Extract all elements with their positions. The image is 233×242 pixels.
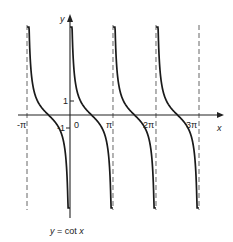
cot-branch — [156, 27, 199, 208]
cot-graph: y x 1 -1 0 -π π 2π 3π — [0, 0, 233, 242]
caption-x: x — [79, 226, 84, 236]
cot-branch — [113, 27, 156, 208]
x-tick-label-neg-pi: -π — [17, 120, 26, 130]
cot-branch — [27, 27, 70, 208]
x-axis-arrow-icon — [217, 112, 224, 118]
asymptote-lines — [27, 25, 199, 210]
x-tick-label-origin: 0 — [74, 120, 79, 130]
x-tick-label-pi: π — [106, 120, 112, 130]
y-tick-label-minus-1: -1 — [57, 123, 65, 133]
x-axis-label: x — [216, 123, 222, 133]
chart-caption: y = cot x — [50, 226, 84, 236]
caption-eq: = cot — [55, 226, 80, 236]
x-tick-label-3pi: 3π — [186, 120, 197, 130]
y-axis-arrow-icon — [67, 14, 73, 22]
cot-branch — [70, 27, 113, 208]
y-tick-label-1: 1 — [63, 96, 68, 106]
y-axis-label: y — [59, 14, 65, 24]
x-tick-label-2pi: 2π — [143, 120, 154, 130]
